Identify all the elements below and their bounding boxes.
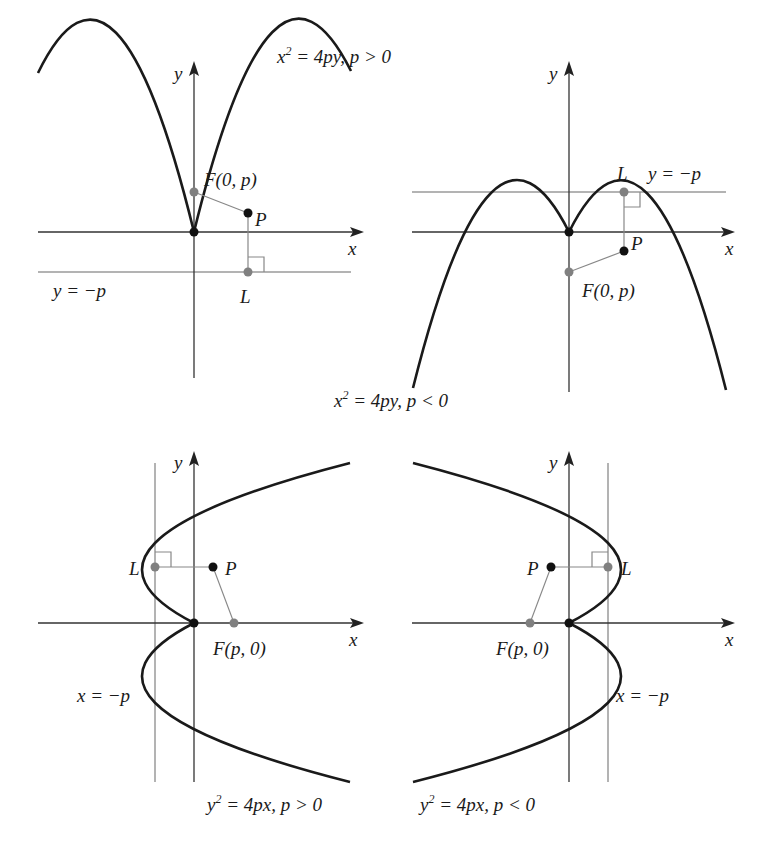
point-dot [620,247,629,256]
vertex-dot [190,619,199,628]
directrix-label: y = −p [646,163,701,184]
focus-label: F(p, 0) [212,638,266,660]
foot-dot [244,268,253,277]
y-axis-label: y [547,452,558,473]
panel-opens-left: y x F(p, 0) P L x = −p y2 = 4px, p < 0 [412,451,735,815]
foot-dot [151,563,160,572]
focus-label: F(0, p) [203,169,257,191]
panel-opens-right: y x F(p, 0) P L x = −p y2 = 4px, p > 0 [38,451,364,815]
focus-dot [526,619,535,628]
foot-dot [620,188,629,197]
point-label: P [224,558,237,579]
vertex-dot [190,228,199,237]
panel-opens-up: y x F(0, p) P L y = −p x2 = 4py, p > 0 [38,19,391,378]
point-label: P [630,233,643,254]
focus-label: F(0, p) [581,280,635,302]
directrix-label: y = −p [51,280,106,301]
point-label: P [526,558,539,579]
point-dot [547,563,556,572]
caption: y2 = 4px, p < 0 [418,792,536,815]
x-axis-label: x [347,238,357,259]
focus-label: F(p, 0) [495,638,549,660]
x-axis-label: x [724,629,734,650]
focus-dot [565,268,574,277]
caption: x2 = 4py, p < 0 [333,388,448,411]
y-axis-label: y [172,63,183,84]
foot-label: L [239,286,251,307]
point-dot [244,209,253,218]
x-axis-label: x [348,629,358,650]
directrix-label: x = −p [76,685,130,706]
foot-label: L [128,558,140,579]
point-dot [209,563,218,572]
y-axis-label: y [172,452,183,473]
panel-opens-down: y x F(0, p) P L y = −p x2 = 4py, p < 0 [333,61,735,411]
foot-label: L [620,558,632,579]
caption: y2 = 4px, p > 0 [205,792,323,815]
caption: x2 = 4py, p > 0 [276,44,391,67]
directrix-label: x = −p [615,685,669,706]
parabola-diagram: y x F(0, p) P L y = −p x2 = 4py, p > 0 y… [0,0,772,844]
focus-dot [230,619,239,628]
vertex-dot [565,619,574,628]
point-label: P [254,209,267,230]
focus-dot [190,188,199,197]
y-axis-label: y [547,63,558,84]
foot-label: L [616,163,628,184]
focus-to-point-segment [569,251,624,272]
x-axis-label: x [724,238,734,259]
foot-dot [604,563,613,572]
vertex-dot [565,228,574,237]
